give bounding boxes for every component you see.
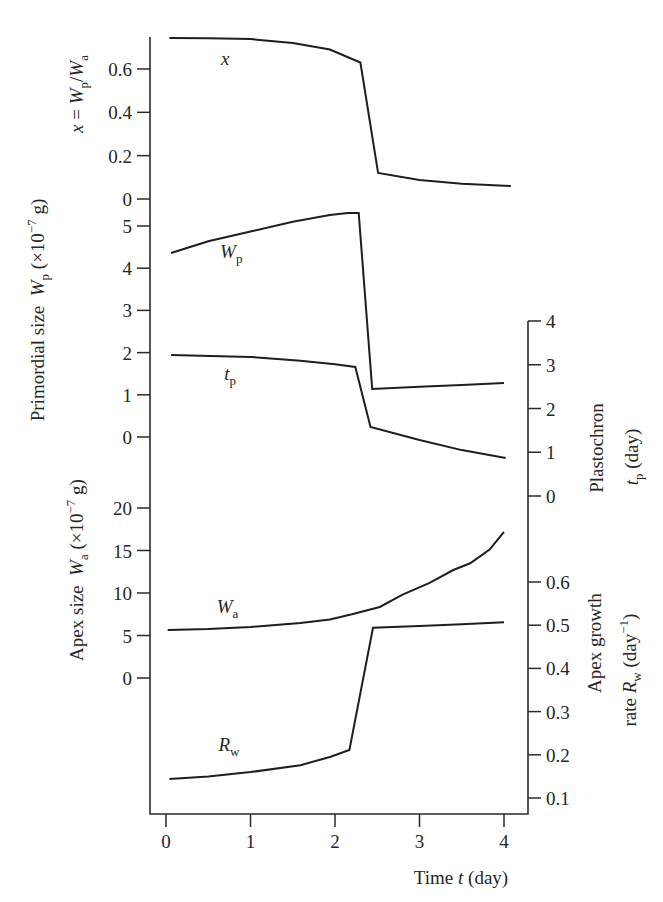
- series-label-wp: Wp: [220, 241, 242, 266]
- left-tick-label-wa: 5: [123, 626, 133, 647]
- series-rw-line: [169, 622, 504, 779]
- x-axis-label: Time t (day): [414, 867, 508, 889]
- ticks: 0.60.40.2054321020151050432100.60.50.40.…: [108, 59, 570, 852]
- x-tick-label: 0: [161, 831, 171, 852]
- y-axis-label-tp: Plastochron: [586, 403, 607, 493]
- left-tick-label-wp: 0: [123, 427, 133, 448]
- left-tick-label-wp: 5: [123, 216, 133, 237]
- series-label-tp: tp: [224, 363, 236, 388]
- y-axis-label-rw: Apex growth: [584, 593, 605, 693]
- text-segment: g): [27, 199, 49, 220]
- left-tick-label-ratio: 0: [123, 189, 133, 210]
- y-axis-label-wa: Apex size Wa (×10−7 g): [63, 479, 91, 661]
- left-tick-label-wp: 1: [123, 385, 133, 406]
- left-tick-label-wa: 20: [113, 498, 132, 519]
- right-tick-label-tp: 3: [546, 355, 556, 376]
- superscript: −1: [616, 620, 631, 634]
- left-tick-label-wa: 15: [113, 541, 132, 562]
- text-segment: (day: [619, 633, 641, 672]
- subscript: p: [236, 251, 243, 266]
- series-wp-line: [171, 213, 504, 389]
- right-tick-label-tp: 2: [546, 399, 556, 420]
- left-tick-label-wp: 2: [123, 343, 133, 364]
- right-tick-label-rw: 0.3: [546, 702, 570, 723]
- left-tick-label-wa: 10: [113, 583, 132, 604]
- text-segment: (day): [621, 429, 643, 474]
- text-segment: Apex size: [66, 576, 87, 661]
- x-tick-label: 4: [499, 831, 509, 852]
- left-tick-label-ratio: 0.6: [108, 59, 132, 80]
- text-segment: Plastochron: [586, 403, 607, 493]
- y-axis-label-ratio: x = Wp/Wa: [66, 55, 91, 134]
- right-tick-label-rw: 0.5: [546, 615, 570, 636]
- text-segment: (day): [463, 867, 508, 889]
- text-segment: R: [619, 681, 640, 694]
- x-tick-label: 3: [415, 831, 425, 852]
- x-tick-label: 1: [246, 831, 256, 852]
- text-segment: x: [220, 48, 230, 69]
- right-tick-label-tp: 4: [546, 311, 556, 332]
- y-axis-label-tp: tp (day): [621, 429, 646, 486]
- subscript: a: [233, 606, 239, 621]
- curves: [168, 38, 511, 779]
- text-segment: (×10: [27, 233, 49, 274]
- multi-axis-line-chart: 0.60.40.2054321020151050432100.60.50.40.…: [0, 0, 663, 902]
- axes: [150, 37, 528, 814]
- text-segment: Apex growth: [584, 593, 605, 693]
- y-axis-label-wp: Primordial size Wp (×10−7 g): [24, 199, 52, 422]
- right-tick-label-tp: 0: [546, 486, 556, 507]
- left-tick-label-ratio: 0.4: [108, 102, 132, 123]
- y-axis-label-rw: rate Rw (day−1): [616, 614, 644, 727]
- subscript: a: [76, 55, 91, 61]
- text-segment: (×10: [66, 514, 88, 555]
- left-tick-label-wa: 0: [123, 668, 133, 689]
- subscript: w: [230, 744, 240, 759]
- series-label-rw: Rw: [217, 734, 240, 759]
- right-tick-label-rw: 0.4: [546, 658, 570, 679]
- superscript: −7: [63, 499, 78, 513]
- left-tick-label-wp: 3: [123, 300, 133, 321]
- left-tick-label-wp: 4: [123, 258, 133, 279]
- right-tick-label-rw: 0.1: [546, 788, 570, 809]
- subscript: p: [230, 373, 237, 388]
- right-tick-label-rw: 0.6: [546, 572, 570, 593]
- right-tick-label-tp: 1: [546, 442, 556, 463]
- text-segment: R: [217, 734, 230, 755]
- series-tp-line: [171, 355, 506, 458]
- x-tick-label: 2: [330, 831, 340, 852]
- axis-frame: [150, 37, 528, 814]
- text-segment: g): [66, 479, 88, 500]
- series-label-wa: Wa: [217, 596, 239, 621]
- figure: 0.60.40.2054321020151050432100.60.50.40.…: [0, 0, 663, 902]
- text-segment: ): [619, 614, 641, 620]
- series-label-x: x: [220, 48, 230, 69]
- left-tick-label-ratio: 0.2: [108, 146, 132, 167]
- text-segment: Time: [414, 867, 458, 888]
- text-segment: =: [66, 104, 87, 124]
- superscript: −7: [24, 219, 39, 233]
- right-tick-label-rw: 0.2: [546, 745, 570, 766]
- text-segment: rate: [619, 693, 640, 726]
- text-segment: Primordial size: [27, 296, 48, 421]
